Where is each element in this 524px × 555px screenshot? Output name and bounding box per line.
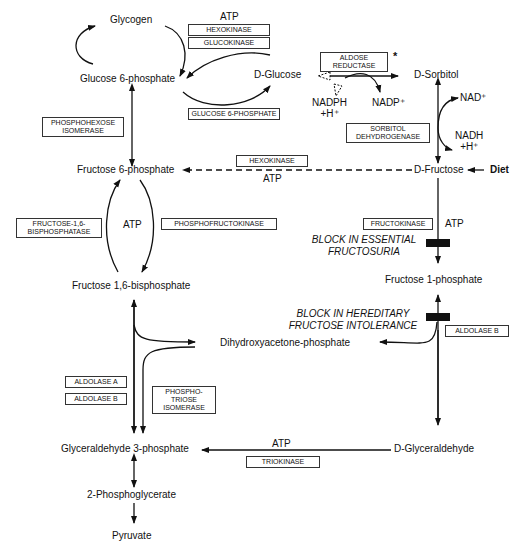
annotation-block-hereditary-fructose-intolerance: BLOCK IN HEREDITARY FRUCTOSE INTOLERANCE xyxy=(286,308,420,332)
enzyme-aldolase-b-left: ALDOLASE B xyxy=(65,393,127,405)
enzyme-phosphofructokinase: PHOSPHOFRUCTOKINASE xyxy=(161,218,277,230)
enzyme-aldolase-b-right: ALDOLASE B xyxy=(445,325,509,337)
block-bar-fructokinase xyxy=(426,239,450,247)
metabolite-fructose-1-6-bisphosphate: Fructose 1,6-bisphosphate xyxy=(72,280,190,292)
cofactor-nadph: NADPH +H⁺ xyxy=(312,97,347,119)
block-bar-aldolase-b xyxy=(426,313,450,321)
metabolite-glycogen: Glycogen xyxy=(110,14,152,26)
enzyme-phosphohexose-isomerase: PHOSPHOHEXOSE ISOMERASE xyxy=(42,117,124,137)
enzyme-glucose-6-phosphatase: GLUCOSE 6-PHOSPHATE xyxy=(188,108,280,120)
metabolite-dihydroxyacetone-phosphate: Dihydroxyacetone-phosphate xyxy=(220,337,350,349)
cofactor-atp-top: ATP xyxy=(220,11,239,22)
cofactor-nadp: NADP⁺ xyxy=(372,97,405,108)
enzyme-glucokinase: GLUCOKINASE xyxy=(188,37,270,49)
aldose-reductase-star: * xyxy=(393,50,397,62)
metabolite-fructose-1-phosphate: Fructose 1-phosphate xyxy=(385,274,482,286)
cofactor-atp-fructokinase: ATP xyxy=(445,218,464,229)
metabolite-d-fructose: D-Fructose xyxy=(414,164,463,176)
enzyme-hexokinase-mid: HEXOKINASE xyxy=(236,155,308,167)
metabolite-glucose-6-phosphate: Glucose 6-phosphate xyxy=(80,73,175,85)
cofactor-atp-hexokinase: ATP xyxy=(263,173,282,184)
metabolite-glyceraldehyde-3-phosphate: Glyceraldehyde 3-phosphate xyxy=(61,443,189,455)
fructose-metabolism-diagram: Glycogen Glucose 6-phosphate D-Glucose D… xyxy=(0,0,524,555)
enzyme-hexokinase-top: HEXOKINASE xyxy=(188,24,270,36)
metabolite-pyruvate: Pyruvate xyxy=(112,530,151,542)
enzyme-sorbitol-dehydrogenase: SORBITOL DEHYDROGENASE xyxy=(346,123,430,143)
cofactor-nad: NAD⁺ xyxy=(460,92,486,103)
metabolite-d-glyceraldehyde: D-Glyceraldehyde xyxy=(394,443,474,455)
cofactor-atp-pfk: ATP xyxy=(123,219,142,230)
enzyme-triokinase: TRIOKINASE xyxy=(246,456,320,468)
enzyme-aldolase-a: ALDOLASE A xyxy=(65,376,127,388)
enzyme-phosphotriose-isomerase: PHOSPHO- TRIOSE ISOMERASE xyxy=(152,386,216,414)
metabolite-fructose-6-phosphate: Fructose 6-phosphate xyxy=(77,164,174,176)
cofactor-nadh: NADH +H⁺ xyxy=(455,130,483,152)
metabolite-d-glucose: D-Glucose xyxy=(254,69,301,81)
cofactor-atp-triokinase: ATP xyxy=(272,438,291,449)
metabolite-2-phosphoglycerate: 2-Phosphoglycerate xyxy=(87,489,176,501)
enzyme-aldose-reductase: ALDOSE REDUCTASE xyxy=(320,52,388,72)
annotation-block-essential-fructosuria: BLOCK IN ESSENTIAL FRUCTOSURIA xyxy=(307,234,421,258)
enzyme-fructose-1-6-bisphosphatase: FRUCTOSE-1,6- BISPHOSPHATASE xyxy=(16,218,102,238)
source-diet: Diet xyxy=(490,164,509,176)
enzyme-fructokinase: FRUCTOKINASE xyxy=(363,218,433,230)
metabolite-d-sorbitol: D-Sorbitol xyxy=(414,69,458,81)
